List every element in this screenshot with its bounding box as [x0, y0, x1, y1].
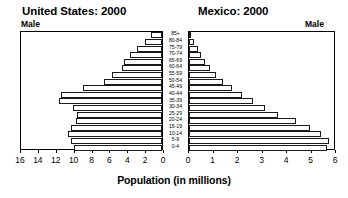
mexico-axis-tick [237, 150, 238, 153]
mexico-axis-tick [335, 150, 336, 153]
us-male-label: Male [21, 20, 40, 29]
us-axis-tick [56, 150, 57, 153]
age-group-axis: 85+80-8475-7970-7465-6960-6455-5950-5445… [163, 31, 188, 150]
us-bar [61, 92, 162, 98]
age-group-label: 40-44 [163, 91, 188, 97]
us-axis-tick-label: 0 [155, 155, 171, 165]
us-bar [74, 145, 162, 151]
us-axis-tick [74, 150, 75, 153]
mexico-bar [189, 145, 327, 151]
us-bar [77, 112, 162, 118]
us-axis-tick-label: 2 [137, 155, 153, 165]
age-group-label: 70-74 [163, 51, 188, 57]
mexico-plot-area [188, 31, 335, 150]
us-axis-tick [145, 150, 146, 153]
age-group-label: 5-9 [163, 137, 188, 143]
mexico-axis-tick-label: 6 [327, 155, 343, 165]
mexico-axis-tick [286, 150, 287, 153]
mexico-bar [189, 59, 205, 65]
mexico-chart-title: Mexico: 2000 [198, 5, 268, 18]
age-group-label: 55-59 [163, 71, 188, 77]
mexico-axis-tick [188, 150, 189, 153]
us-plot-area [20, 31, 163, 150]
mexico-axis-tick-label: 3 [254, 155, 270, 165]
mexico-bar [189, 138, 329, 144]
mexico-axis-tick [262, 150, 263, 153]
mexico-bar [189, 112, 278, 118]
age-group-label: 0-4 [163, 144, 188, 150]
us-bars-layer [21, 32, 162, 149]
us-bar [76, 118, 162, 124]
mexico-axis-tick-label: 2 [229, 155, 245, 165]
mexico-bar [189, 46, 198, 52]
us-chart-title: United States: 2000 [22, 5, 126, 18]
mexico-bar [189, 131, 321, 137]
us-bar [122, 65, 162, 71]
us-bar [130, 52, 162, 58]
us-bar [73, 105, 162, 111]
us-bar [71, 125, 162, 131]
mexico-bar [189, 105, 265, 111]
us-bar [104, 79, 162, 85]
mexico-axis-tick-label: 1 [205, 155, 221, 165]
us-bar [71, 138, 162, 144]
mexico-bar [189, 85, 232, 91]
mexico-bar [189, 125, 310, 131]
mexico-bar [189, 72, 216, 78]
us-bar [59, 98, 162, 104]
mexico-bar [189, 118, 296, 124]
us-axis-tick-label: 12 [48, 155, 64, 165]
mexico-axis-tick-label: 4 [278, 155, 294, 165]
us-bar [137, 46, 162, 52]
us-axis-tick-label: 16 [12, 155, 28, 165]
us-axis-tick-label: 14 [30, 155, 46, 165]
mexico-axis-tick [213, 150, 214, 153]
us-bar [145, 39, 162, 45]
mexico-axis-tick-label: 5 [303, 155, 319, 165]
us-axis-tick [163, 150, 164, 153]
us-bar [151, 32, 162, 38]
us-axis-tick-label: 6 [101, 155, 117, 165]
mexico-bar [189, 98, 253, 104]
mexico-bar [189, 52, 201, 58]
mexico-bar [189, 65, 210, 71]
age-group-label: 80-84 [163, 38, 188, 44]
us-axis-tick [109, 150, 110, 153]
age-group-label: 15-19 [163, 124, 188, 130]
population-pyramid-figure: United States: 2000 Mexico: 2000 Male Ma… [0, 0, 348, 198]
mexico-bar [189, 32, 191, 38]
us-bar [68, 131, 162, 137]
mexico-axis-tick-label: 0 [180, 155, 196, 165]
us-axis-tick-label: 4 [119, 155, 135, 165]
age-group-label: 30-34 [163, 104, 188, 110]
mexico-bar [189, 39, 194, 45]
us-axis-tick-label: 10 [66, 155, 82, 165]
mexico-bars-layer [189, 32, 334, 149]
us-axis-tick [92, 150, 93, 153]
us-axis-tick [20, 150, 21, 153]
mexico-axis-tick [311, 150, 312, 153]
us-bar [112, 72, 162, 78]
us-bar [83, 85, 162, 91]
mexico-bar [189, 92, 242, 98]
us-axis-tick [38, 150, 39, 153]
mexico-male-label: Male [305, 20, 324, 29]
us-axis-tick [127, 150, 128, 153]
axis-caption: Population (in millions) [0, 174, 348, 186]
us-axis-tick-label: 8 [84, 155, 100, 165]
us-bar [124, 59, 162, 65]
mexico-bar [189, 79, 223, 85]
